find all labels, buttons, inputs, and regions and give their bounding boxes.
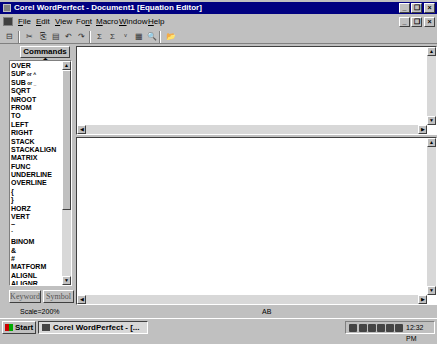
equation-text-pane[interactable]: ▲ ▼ ◀ ▶: [76, 46, 437, 135]
redisplay-icon[interactable]: Σ: [94, 31, 105, 42]
list-item[interactable]: BINOM: [11, 238, 63, 246]
list-item[interactable]: `: [11, 230, 63, 238]
menu-edit[interactable]: Edit: [36, 15, 50, 28]
list-item[interactable]: &: [11, 247, 63, 255]
command-label: UNDERLINE: [11, 171, 52, 178]
command-label: SUP: [11, 70, 25, 77]
scroll-up-icon[interactable]: ▲: [427, 138, 436, 147]
close-button[interactable]: ×: [424, 3, 435, 13]
menu-bar: File Edit View Font Macro Window Help _ …: [0, 15, 437, 28]
symbol-button[interactable]: Symbol: [43, 290, 74, 303]
list-item[interactable]: LEFT: [11, 121, 63, 129]
title-bar: Corel WordPerfect - Document1 [Equation …: [0, 2, 437, 14]
app-icon[interactable]: [3, 4, 11, 12]
tray-app-icon[interactable]: [386, 324, 394, 332]
close-editor-icon[interactable]: ⊟: [4, 31, 15, 42]
toolbar-separator: [18, 31, 20, 43]
preview-pane-hscroll[interactable]: ◀ ▶: [77, 295, 427, 304]
list-item[interactable]: STACK: [11, 138, 63, 146]
tray-app-icon[interactable]: [377, 324, 385, 332]
document-icon[interactable]: [3, 17, 13, 26]
list-item[interactable]: ALIGNL: [11, 272, 63, 280]
list-item[interactable]: OVERLINE: [11, 179, 63, 187]
preview-pane-vscroll[interactable]: ▲ ▼: [427, 138, 436, 295]
undo-icon[interactable]: ↶: [63, 31, 74, 42]
list-item[interactable]: FUNC: [11, 163, 63, 171]
scroll-thumb[interactable]: [62, 70, 71, 210]
keyword-button[interactable]: Keyword: [9, 290, 41, 303]
list-item[interactable]: MATRIX: [11, 154, 63, 162]
zoom-icon[interactable]: 🔍: [146, 31, 157, 42]
list-item[interactable]: }: [11, 196, 63, 204]
list-item[interactable]: #: [11, 255, 63, 263]
redo-icon[interactable]: ↷: [76, 31, 87, 42]
insert-symbol-icon[interactable]: ᵛ: [120, 31, 131, 42]
wordperfect-icon: [42, 324, 50, 331]
settings-icon[interactable]: ▦: [133, 31, 144, 42]
doc-close-button[interactable]: ×: [424, 17, 435, 27]
scroll-right-icon[interactable]: ▶: [418, 125, 427, 134]
list-item[interactable]: OVER: [11, 62, 63, 70]
list-item[interactable]: ~: [11, 221, 63, 229]
restore-button[interactable]: ❐: [411, 3, 422, 13]
menu-macro[interactable]: Macro: [96, 15, 118, 28]
taskbar-item-wordperfect[interactable]: Corel WordPerfect - [...: [38, 321, 148, 334]
palette-dropdown[interactable]: Commands ⬍: [20, 46, 70, 58]
command-label: RIGHT: [11, 129, 33, 136]
command-label: SUB: [11, 79, 26, 86]
doc-minimize-button[interactable]: _: [399, 17, 410, 27]
scroll-left-icon[interactable]: ◀: [77, 295, 86, 304]
scroll-down-icon[interactable]: ▼: [62, 276, 71, 285]
menu-font[interactable]: Font: [76, 15, 92, 28]
list-item[interactable]: UNDERLINE: [11, 171, 63, 179]
menu-file[interactable]: File: [18, 15, 31, 28]
scroll-up-icon[interactable]: ▲: [62, 61, 71, 70]
list-item[interactable]: SUP or ^: [11, 70, 63, 78]
tray-app-icon[interactable]: [359, 324, 367, 332]
list-item[interactable]: ALIGNR: [11, 280, 63, 286]
start-button[interactable]: Start: [2, 321, 36, 334]
open-icon[interactable]: 📂: [165, 31, 176, 42]
list-item[interactable]: STACKALIGN: [11, 146, 63, 154]
menu-font-label: t: [90, 17, 92, 26]
command-label: VERT: [11, 213, 30, 220]
text-pane-vscroll[interactable]: ▲ ▼: [427, 47, 436, 125]
list-item[interactable]: {: [11, 188, 63, 196]
list-item[interactable]: SQRT: [11, 87, 63, 95]
list-item[interactable]: NROOT: [11, 96, 63, 104]
tray-app-icon[interactable]: [368, 324, 376, 332]
list-item[interactable]: RIGHT: [11, 129, 63, 137]
paste-icon[interactable]: ▤: [50, 31, 61, 42]
scroll-left-icon[interactable]: ◀: [77, 125, 86, 134]
menu-window-accel: W: [119, 17, 127, 26]
scroll-up-icon[interactable]: ▲: [427, 47, 436, 56]
list-item[interactable]: TO: [11, 112, 63, 120]
list-item[interactable]: FROM: [11, 104, 63, 112]
volume-icon[interactable]: [349, 324, 357, 332]
equation-preview-pane[interactable]: ▲ ▼ ◀ ▶: [76, 137, 437, 305]
menu-view[interactable]: View: [55, 15, 72, 28]
list-item[interactable]: HORZ: [11, 205, 63, 213]
copy-icon[interactable]: ⎘: [37, 31, 48, 42]
commands-scrollbar[interactable]: ▲ ▼: [62, 61, 71, 285]
text-pane-hscroll[interactable]: ◀ ▶: [77, 125, 427, 134]
menu-help[interactable]: Help: [148, 15, 164, 28]
scroll-down-icon[interactable]: ▼: [427, 286, 436, 295]
tray-app-icon[interactable]: [395, 324, 403, 332]
command-label: `: [11, 230, 13, 237]
zoom-display-icon[interactable]: Σ: [107, 31, 118, 42]
menu-window[interactable]: Window: [119, 15, 147, 28]
cut-icon[interactable]: ✂: [24, 31, 35, 42]
command-label: MATRIX: [11, 154, 37, 161]
clock[interactable]: 12:32 PM: [406, 322, 434, 344]
scroll-down-icon[interactable]: ▼: [427, 116, 436, 125]
command-label: SQRT: [11, 87, 30, 94]
commands-list[interactable]: OVER SUP or ^ SUB or _ SQRT NROOT FROM T…: [9, 60, 72, 286]
list-item[interactable]: VERT: [11, 213, 63, 221]
list-item[interactable]: SUB or _: [11, 79, 63, 87]
start-label: Start: [15, 323, 33, 332]
minimize-button[interactable]: _: [399, 3, 410, 13]
doc-restore-button[interactable]: ❐: [411, 17, 422, 27]
scroll-right-icon[interactable]: ▶: [418, 295, 427, 304]
list-item[interactable]: MATFORM: [11, 263, 63, 271]
